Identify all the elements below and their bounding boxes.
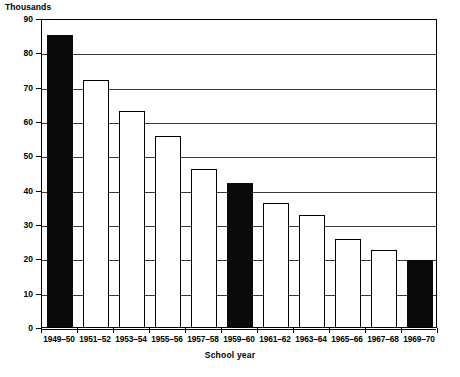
bar-1959-60 xyxy=(227,183,253,327)
x-axis-title: School year xyxy=(0,350,460,360)
y-axis-tick xyxy=(36,122,41,123)
y-axis-tick-label: 20 xyxy=(7,254,33,264)
x-axis-tick xyxy=(437,328,438,333)
x-axis-category-label: 1953–54 xyxy=(115,334,147,344)
bar-1967-68 xyxy=(371,250,397,327)
y-axis-tick xyxy=(36,88,41,89)
x-axis-category-label: 1949–50 xyxy=(43,334,75,344)
gridline xyxy=(42,329,436,330)
x-axis-category-label: 1957–58 xyxy=(187,334,219,344)
y-axis-tick xyxy=(36,191,41,192)
y-axis-tick-label: 30 xyxy=(7,220,33,230)
y-axis-tick-label: 40 xyxy=(7,186,33,196)
y-axis-tick xyxy=(36,294,41,295)
plot-area xyxy=(41,19,437,328)
x-axis-category-label: 1963–64 xyxy=(295,334,327,344)
x-axis-category-label: 1951–52 xyxy=(79,334,111,344)
bar-1963-64 xyxy=(299,215,325,327)
bar-1953-54 xyxy=(119,111,145,327)
bar-chart-figure: Thousands 9080706050403020100 1949–50195… xyxy=(0,0,460,377)
bar-1951-52 xyxy=(83,80,109,327)
x-axis-category-label: 1955–56 xyxy=(151,334,183,344)
x-axis-category-label: 1959–60 xyxy=(223,334,255,344)
y-axis-tick-label: 50 xyxy=(7,151,33,161)
y-axis-tick-label: 60 xyxy=(7,117,33,127)
bar-1969-70 xyxy=(407,260,433,327)
y-axis-tick-label: 80 xyxy=(7,48,33,58)
x-axis-category-label: 1965–66 xyxy=(331,334,363,344)
bar-1961-62 xyxy=(263,203,289,327)
bar-1955-56 xyxy=(155,136,181,327)
x-axis-category-label: 1961–62 xyxy=(259,334,291,344)
y-axis-tick xyxy=(36,19,41,20)
x-axis-category-label: 1969–70 xyxy=(403,334,435,344)
bars-layer xyxy=(42,20,436,327)
y-axis-tick xyxy=(36,259,41,260)
y-axis-tick xyxy=(36,156,41,157)
bar-1957-58 xyxy=(191,169,217,327)
bar-1949-50 xyxy=(47,35,73,327)
bar-1965-66 xyxy=(335,239,361,327)
y-axis-tick xyxy=(36,53,41,54)
y-axis-tick xyxy=(36,225,41,226)
x-axis-labels: 1949–501951–521953–541955–561957–581959–… xyxy=(41,334,437,348)
y-axis-tick-label: 70 xyxy=(7,83,33,93)
y-axis-tick-label: 0 xyxy=(7,323,33,333)
y-axis-unit-label: Thousands xyxy=(5,2,51,12)
x-axis-category-label: 1967–68 xyxy=(367,334,399,344)
y-axis-tick-label: 90 xyxy=(7,14,33,24)
y-axis-tick-label: 10 xyxy=(7,289,33,299)
